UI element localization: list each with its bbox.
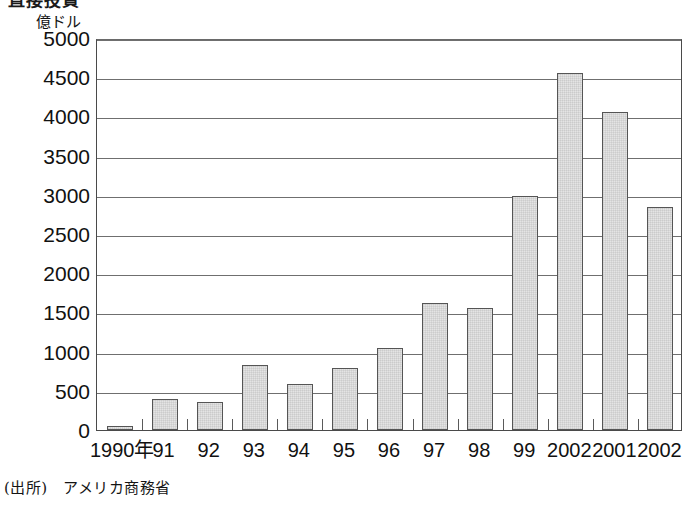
x-axis-tick-labels: 1990年919293949596979899200220012002 [96, 438, 682, 466]
x-axis-tick [142, 419, 143, 430]
x-axis-tick [322, 419, 323, 430]
bar [557, 73, 583, 430]
x-axis-tick [638, 419, 639, 430]
y-axis-tick-label: 1500 [4, 302, 90, 323]
x-axis-tick [413, 419, 414, 430]
y-axis-tick-label: 3500 [4, 146, 90, 167]
bar [197, 402, 223, 430]
y-axis-tick-label: 4500 [4, 67, 90, 88]
x-axis-tick-label: 2002 [631, 438, 685, 462]
y-axis-tick-label: 5000 [4, 28, 90, 49]
page-title: 直接投資 [8, 0, 80, 10]
x-axis-tick [458, 419, 459, 430]
x-axis-tick [503, 419, 504, 430]
x-axis-tick [548, 419, 549, 430]
x-axis-tick [232, 419, 233, 430]
bar [287, 384, 313, 430]
y-axis-tick-label: 3000 [4, 185, 90, 206]
plot-area [96, 39, 682, 431]
y-axis-tick-label: 2500 [4, 224, 90, 245]
bar-series [97, 40, 681, 430]
y-axis-tick-labels: 5000450040003500300025002000150010005000 [0, 39, 90, 431]
source-note: (出所) アメリカ商務省 [4, 476, 171, 497]
bar [467, 308, 493, 430]
y-axis-tick-label: 2000 [4, 263, 90, 284]
bar [332, 368, 358, 430]
bar [107, 426, 133, 430]
y-axis-tick-label: 1000 [4, 342, 90, 363]
x-axis-tick [593, 419, 594, 430]
x-axis-tick [277, 419, 278, 430]
y-axis-tick-label: 4000 [4, 106, 90, 127]
x-axis-tick [187, 419, 188, 430]
y-axis-tick-label: 500 [4, 381, 90, 402]
bar [512, 196, 538, 430]
bar [377, 348, 403, 430]
chart-page: 直接投資 億ドル 5000450040003500300025002000150… [0, 0, 685, 511]
y-axis-tick-label: 0 [4, 420, 90, 441]
bar [647, 207, 673, 430]
chart-title-strip: 直接投資 [0, 0, 685, 10]
bar [152, 399, 178, 430]
bar [602, 112, 628, 430]
x-axis-tick [367, 419, 368, 430]
bar [422, 303, 448, 430]
bar [242, 365, 268, 430]
